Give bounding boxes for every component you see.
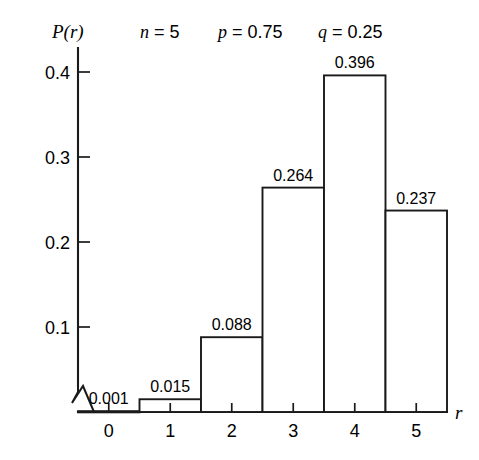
- y-tick-label-1: 0.1: [45, 318, 70, 338]
- x-tick-label-1: 1: [165, 421, 175, 441]
- y-tick-label-3: 0.3: [45, 148, 70, 168]
- param-q-symbol: q: [318, 22, 327, 42]
- y-axis-ticks: 0.4 0.3 0.2 0.1: [45, 63, 90, 338]
- param-p-group: p=0.75: [216, 22, 283, 42]
- param-n-value: 5: [170, 22, 180, 42]
- bar-value-label-5: 0.237: [396, 190, 436, 207]
- parameter-annotations: n=5 p=0.75 q=0.25: [140, 22, 383, 42]
- bar-3: [263, 188, 325, 412]
- bar-5: [386, 211, 448, 412]
- param-p-symbol: p: [216, 22, 227, 42]
- bar-4: [324, 75, 386, 412]
- bar-value-label-2: 0.088: [212, 316, 252, 333]
- param-q-group: q=0.25: [318, 22, 383, 42]
- bars-layer: [78, 75, 447, 412]
- bar-2: [201, 337, 263, 412]
- bar-value-label-1: 0.015: [150, 378, 190, 395]
- y-axis-label: P(r): [51, 21, 84, 43]
- x-tick-labels: 012345: [104, 421, 422, 441]
- bar-value-label-3: 0.264: [273, 167, 313, 184]
- x-tick-label-4: 4: [350, 421, 360, 441]
- param-n-equals: =: [154, 22, 165, 42]
- param-q-value: 0.25: [348, 22, 383, 42]
- x-tick-label-2: 2: [227, 421, 237, 441]
- param-q-equals: =: [332, 22, 343, 42]
- param-p-value: 0.75: [248, 22, 283, 42]
- bar-value-label-4: 0.396: [335, 54, 375, 71]
- y-tick-label-2: 0.2: [45, 233, 70, 253]
- param-n-group: n=5: [140, 22, 180, 42]
- x-tick-label-0: 0: [104, 421, 114, 441]
- param-p-equals: =: [232, 22, 243, 42]
- param-n-symbol: n: [140, 22, 149, 42]
- bar-value-label-0: 0.001: [89, 390, 129, 407]
- x-tick-label-5: 5: [411, 421, 421, 441]
- x-axis-label: r: [455, 402, 463, 423]
- chart-canvas: P(r) n=5 p=0.75 q=0.25 r 0.4 0.3: [0, 0, 479, 460]
- x-tick-label-3: 3: [288, 421, 298, 441]
- y-tick-label-4: 0.4: [45, 63, 70, 83]
- binomial-distribution-chart: P(r) n=5 p=0.75 q=0.25 r 0.4 0.3: [0, 0, 479, 460]
